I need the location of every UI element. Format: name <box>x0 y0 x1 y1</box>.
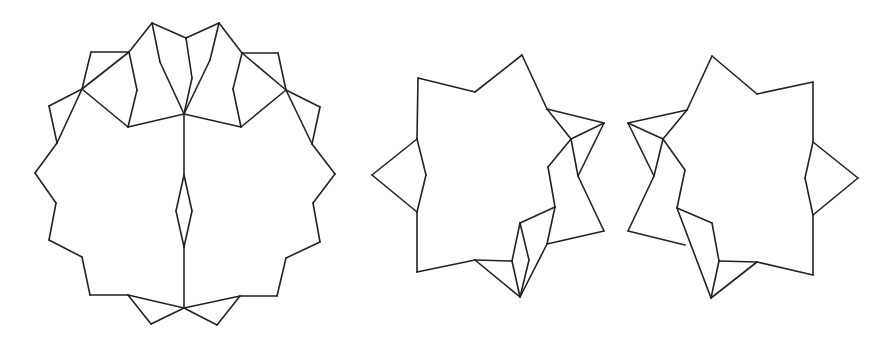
edge-line <box>372 139 417 175</box>
edge-line <box>286 90 312 144</box>
edge-line <box>522 55 547 109</box>
edge-line <box>49 106 57 143</box>
edge-line <box>677 208 711 298</box>
edge-line <box>520 207 555 223</box>
edge-line <box>547 207 555 244</box>
edge-line <box>35 143 57 173</box>
edge-line <box>417 260 475 272</box>
edge-line <box>151 308 184 324</box>
edge-line <box>712 223 719 261</box>
edge-line <box>160 62 184 114</box>
edge-line <box>152 23 186 38</box>
edge-line <box>184 60 210 114</box>
edge-line <box>176 211 184 247</box>
edge-line <box>663 139 685 170</box>
edge-line <box>475 260 512 261</box>
edge-line <box>184 78 192 114</box>
edge-line <box>49 89 82 106</box>
edge-line <box>417 175 426 212</box>
edge-line <box>628 176 654 231</box>
edge-line <box>49 240 82 257</box>
edge-line <box>578 176 604 231</box>
edge-line <box>241 90 286 127</box>
geometric-diagram-canvas <box>0 0 888 341</box>
edge-line <box>186 23 219 38</box>
edge-line <box>219 23 242 53</box>
edge-line <box>628 123 663 139</box>
edge-line <box>687 56 712 110</box>
edge-line <box>286 242 320 258</box>
edge-line <box>129 52 137 90</box>
edge-line <box>520 223 529 260</box>
edge-line <box>757 82 813 94</box>
edge-line <box>547 231 604 244</box>
edge-line <box>312 107 320 144</box>
figure-seven-point-star-left <box>372 55 604 297</box>
edge-line <box>176 175 184 211</box>
edge-line <box>628 123 654 176</box>
edge-line <box>805 178 813 215</box>
edge-line <box>813 178 858 215</box>
edge-line <box>186 38 192 78</box>
edge-line <box>82 257 90 295</box>
edge-line <box>313 174 335 203</box>
edge-line <box>418 78 475 92</box>
edge-line <box>520 260 529 297</box>
edge-line <box>475 55 522 92</box>
edge-line <box>512 223 520 261</box>
edge-line <box>57 89 82 143</box>
edge-line <box>805 142 813 178</box>
edge-line <box>312 144 335 174</box>
edge-line <box>35 173 56 203</box>
edge-line <box>628 231 685 245</box>
edge-line <box>677 170 685 208</box>
edge-line <box>417 78 418 139</box>
edge-line <box>313 203 320 242</box>
edge-line <box>286 90 320 107</box>
edge-line <box>654 139 663 176</box>
edge-line <box>49 203 56 240</box>
edge-line <box>578 123 604 176</box>
figure-seven-point-star-right <box>628 56 858 298</box>
edge-line <box>129 23 152 52</box>
edge-line <box>548 139 571 167</box>
edge-line <box>571 139 578 176</box>
edge-line <box>184 211 192 247</box>
figure-twelve-point-star <box>35 23 335 325</box>
edge-line <box>719 261 757 262</box>
edge-line <box>184 114 241 127</box>
edge-line <box>813 142 858 178</box>
edge-line <box>520 244 547 297</box>
edge-line <box>233 89 241 127</box>
edge-line <box>712 56 757 94</box>
edge-line <box>184 175 192 211</box>
edge-line <box>417 139 426 175</box>
edge-line <box>82 89 128 127</box>
edge-line <box>128 114 184 127</box>
edge-line <box>571 123 604 139</box>
edge-line <box>757 262 813 275</box>
edge-line <box>372 175 417 212</box>
edge-line <box>152 23 160 62</box>
edge-line <box>277 258 286 296</box>
edge-line <box>184 308 217 325</box>
edge-line <box>128 90 137 127</box>
edge-line <box>548 167 555 207</box>
edge-line <box>233 53 242 89</box>
edge-line <box>210 23 219 60</box>
